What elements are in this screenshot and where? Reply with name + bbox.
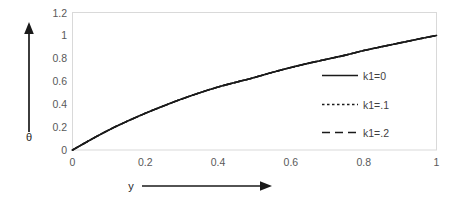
x-tick-label: 0 [70,156,76,168]
legend-label: k1=.2 [363,127,389,139]
legend-label: k1=0 [363,70,386,82]
y-tick-label: 0.4 [52,98,67,110]
y-tick-label: 0.8 [52,52,67,64]
chart-container: 1.2 1 0.8 0.6 0.4 0.2 0 0 0.2 0.4 0.6 0.… [0,0,454,201]
x-tick-label: 1 [434,156,440,168]
x-tick-label: 0.8 [356,156,371,168]
y-tick-label: 0 [61,144,67,156]
y-tick-label: 0.2 [52,121,67,133]
theta-vs-y-line-chart: 1.2 1 0.8 0.6 0.4 0.2 0 0 0.2 0.4 0.6 0.… [0,0,454,201]
x-tick-label: 0.2 [138,156,153,168]
y-tick-label: 1.2 [52,7,67,19]
x-tick-label: 0.4 [211,156,226,168]
x-axis-title: y [128,180,134,192]
y-tick-label: 0.6 [52,75,67,87]
y-tick-label: 1 [61,29,67,41]
legend-label: k1=.1 [363,99,389,111]
x-tick-label: 0.6 [284,156,299,168]
y-axis-title: θ [26,131,32,143]
